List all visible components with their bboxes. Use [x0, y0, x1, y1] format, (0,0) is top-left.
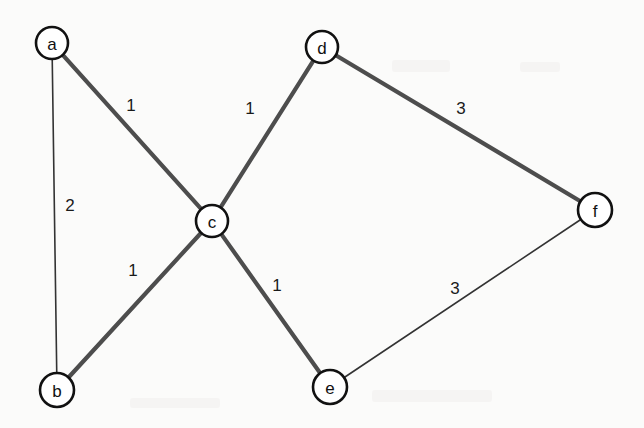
graph-edge-b-c — [69, 234, 200, 377]
graph-edge-d-f — [337, 56, 580, 201]
node-label-d: d — [317, 39, 326, 58]
graph-node-b: b — [40, 373, 74, 407]
graph-edge-c-e — [222, 235, 320, 372]
edge-weight-a-c: 1 — [126, 96, 135, 115]
graph-node-f: f — [578, 193, 612, 227]
graph-svg: 1211133 abcdef — [0, 0, 644, 428]
node-label-e: e — [325, 379, 334, 398]
graph-diagram-canvas: 1211133 abcdef — [0, 0, 644, 428]
node-label-f: f — [593, 202, 598, 221]
graph-edge-c-d — [221, 61, 313, 206]
edge-weight-d-f: 3 — [456, 99, 465, 118]
edge-weight-a-b: 2 — [65, 196, 74, 215]
graph-edge-a-b — [52, 60, 56, 372]
node-label-b: b — [52, 382, 61, 401]
edge-weight-b-c: 1 — [128, 261, 137, 280]
node-label-c: c — [208, 213, 217, 232]
graph-node-d: d — [306, 31, 338, 63]
edge-weight-c-d: 1 — [245, 99, 254, 118]
graph-edge-a-c — [63, 56, 200, 209]
graph-node-c: c — [196, 205, 228, 237]
nodes-layer: abcdef — [36, 27, 612, 407]
graph-node-a: a — [36, 27, 68, 59]
graph-node-e: e — [313, 370, 347, 404]
edge-weight-c-e: 1 — [272, 276, 281, 295]
edge-weight-e-f: 3 — [450, 279, 459, 298]
graph-edge-e-f — [345, 220, 580, 377]
node-label-a: a — [47, 35, 57, 54]
